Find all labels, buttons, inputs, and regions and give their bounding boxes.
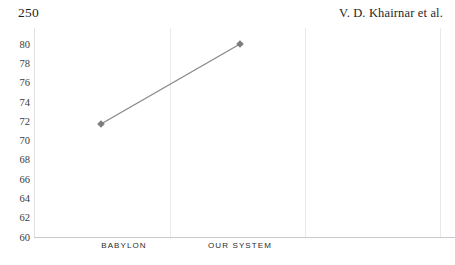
y-tick-64: 64 — [4, 193, 30, 204]
y-tick-76: 76 — [4, 77, 30, 88]
y-tick-62: 62 — [4, 212, 30, 223]
y-tick-68: 68 — [4, 154, 30, 165]
data-point-marker-babylon — [97, 120, 105, 128]
chart-plot-area: 80 78 76 74 72 70 68 66 64 62 60 BABYLON… — [0, 28, 455, 265]
page-header: 250 V. D. Khairnar et al. — [0, 0, 455, 28]
page-number: 250 — [18, 5, 39, 21]
y-tick-78: 78 — [4, 58, 30, 69]
y-tick-72: 72 — [4, 116, 30, 127]
x-tick-label-our-system: OUR SYSTEM — [208, 241, 272, 250]
y-tick-80: 80 — [4, 39, 30, 50]
y-tick-70: 70 — [4, 135, 30, 146]
y-tick-66: 66 — [4, 174, 30, 185]
y-tick-60: 60 — [4, 232, 30, 243]
line-chart-figure: 80 78 76 74 72 70 68 66 64 62 60 BABYLON… — [0, 28, 455, 265]
x-tick-label-babylon: BABYLON — [101, 241, 147, 250]
running-head-authors: V. D. Khairnar et al. — [339, 6, 443, 21]
y-tick-74: 74 — [4, 97, 30, 108]
data-point-marker-our-system — [236, 40, 244, 48]
vertical-gridlines — [171, 28, 441, 237]
chart-svg — [0, 28, 455, 265]
